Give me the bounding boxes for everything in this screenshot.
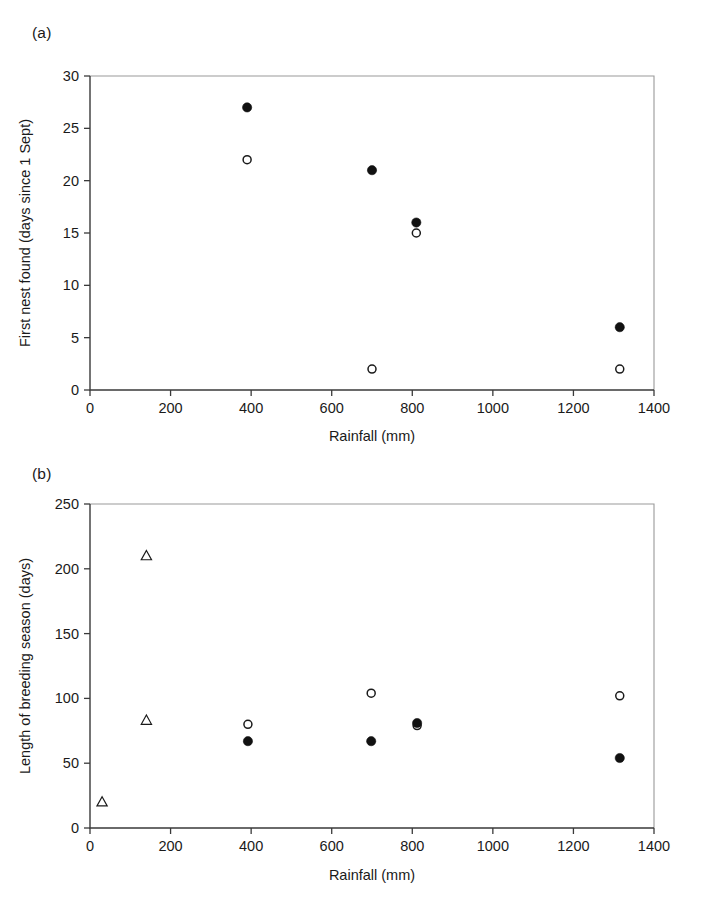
data-point-open-circle (368, 365, 376, 373)
x-tick-label: 400 (239, 838, 263, 854)
x-tick-label: 600 (320, 838, 344, 854)
y-tick-label: 15 (63, 225, 79, 241)
y-tick-label: 250 (55, 496, 79, 512)
panel-a: (a) 020040060080010001200140005101520253… (0, 0, 705, 452)
x-tick-label: 0 (86, 838, 94, 854)
x-tick-label: 1400 (638, 838, 670, 854)
data-point-open-circle (412, 229, 420, 237)
data-point-filled-circle (243, 103, 252, 112)
data-point-open-triangle (141, 715, 151, 724)
x-tick-label: 1000 (477, 838, 509, 854)
x-tick-label: 400 (239, 400, 263, 416)
y-tick-label: 10 (63, 277, 79, 293)
y-tick-label: 20 (63, 173, 79, 189)
x-tick-label: 600 (320, 400, 344, 416)
y-axis-title: Length of breeding season (days) (17, 558, 33, 774)
figure-container: (a) 020040060080010001200140005101520253… (0, 0, 705, 901)
plot-frame (90, 76, 654, 390)
panel-b-plot: 0200400600800100012001400050100150200250… (0, 452, 705, 901)
data-point-open-circle (367, 689, 375, 697)
data-point-open-triangle (97, 797, 107, 806)
axis-lines (90, 76, 654, 390)
y-tick-label: 25 (63, 120, 79, 136)
data-point-filled-circle (615, 323, 624, 332)
y-tick-label: 5 (71, 330, 79, 346)
data-point-filled-circle (367, 166, 376, 175)
data-point-filled-circle (413, 718, 422, 727)
y-tick-label: 200 (55, 561, 79, 577)
x-tick-label: 1200 (557, 400, 589, 416)
x-tick-label: 1000 (477, 400, 509, 416)
axis-lines (90, 504, 654, 828)
data-point-open-triangle (141, 550, 151, 559)
y-tick-label: 150 (55, 626, 79, 642)
data-point-open-circle (243, 156, 251, 164)
y-tick-label: 100 (55, 690, 79, 706)
y-tick-label: 0 (71, 820, 79, 836)
x-tick-label: 200 (158, 838, 182, 854)
data-point-filled-circle (367, 737, 376, 746)
data-point-filled-circle (615, 753, 624, 762)
x-tick-label: 800 (400, 400, 424, 416)
data-point-open-circle (616, 365, 624, 373)
x-tick-label: 800 (400, 838, 424, 854)
data-point-filled-circle (412, 218, 421, 227)
panel-a-plot: 0200400600800100012001400051015202530Rai… (0, 0, 705, 452)
x-axis-title: Rainfall (mm) (329, 867, 415, 883)
y-axis-title: First nest found (days since 1 Sept) (17, 119, 33, 347)
data-point-open-circle (616, 692, 624, 700)
x-axis-title: Rainfall (mm) (329, 428, 415, 444)
y-tick-label: 30 (63, 68, 79, 84)
y-tick-label: 50 (63, 755, 79, 771)
x-tick-label: 200 (158, 400, 182, 416)
panel-b: (b) 020040060080010001200140005010015020… (0, 452, 705, 901)
plot-frame (90, 504, 654, 828)
panel-b-label: (b) (32, 465, 52, 483)
x-tick-label: 0 (86, 400, 94, 416)
x-tick-label: 1200 (557, 838, 589, 854)
data-point-filled-circle (243, 737, 252, 746)
data-point-open-circle (244, 720, 252, 728)
y-tick-label: 0 (71, 382, 79, 398)
x-tick-label: 1400 (638, 400, 670, 416)
panel-a-label: (a) (32, 24, 52, 42)
